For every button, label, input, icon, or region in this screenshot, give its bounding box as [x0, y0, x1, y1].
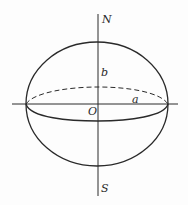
semi-major-label: a [132, 94, 139, 105]
ellipsoid-diagram: N S O a b [0, 0, 188, 205]
semi-minor-label: b [101, 67, 108, 78]
ellipsoid-figure [0, 0, 188, 205]
north-label: N [102, 14, 112, 25]
south-label: S [101, 183, 109, 194]
origin-label: O [88, 106, 97, 117]
equator-back [26, 87, 168, 104]
